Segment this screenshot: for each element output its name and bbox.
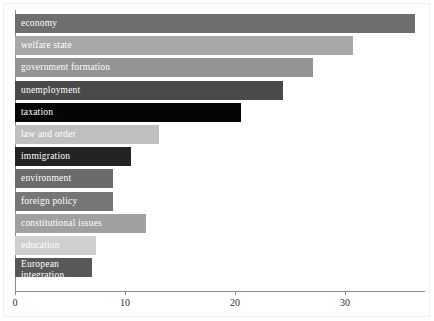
bar-category-label: immigration [21,147,70,166]
x-axis-tick-label: 0 [13,297,18,308]
bar-category-label: constitutional issues [21,214,102,233]
bar-category-label: welfare state [21,36,72,55]
bar-category-label: taxation [21,103,53,122]
x-axis-tick-label: 10 [120,297,130,308]
x-axis-tick [345,291,346,295]
x-axis-tick-label: 20 [230,297,240,308]
bar-category-label: economy [21,14,57,33]
bar-category-label: environment [21,169,71,188]
bar-category-label: unemployment [21,81,80,100]
bar-category-label: European integration [21,258,85,280]
x-axis-tick [235,291,236,295]
bar-category-label: foreign policy [21,192,77,211]
x-axis-tick [125,291,126,295]
bar-chart-figure: economywelfare stategovernment formation… [0,0,434,321]
bar-category-label: government formation [21,58,110,77]
bar-category-label: education [21,236,60,255]
x-axis-tick-label: 30 [340,297,350,308]
bar[interactable] [15,14,415,33]
x-axis-line [15,291,425,292]
bar-category-label: law and order [21,125,76,144]
x-axis-tick [15,291,16,295]
